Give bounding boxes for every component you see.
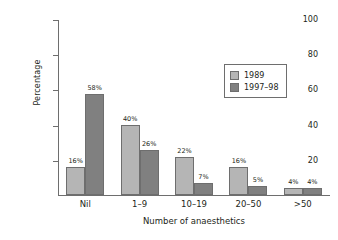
- legend: 19891997–98: [224, 64, 287, 98]
- bar-group: 4%4%: [276, 20, 330, 195]
- x-axis-tick-label: Nil: [58, 199, 112, 209]
- legend-item[interactable]: 1997–98: [230, 81, 279, 93]
- x-axis-tick-label: 10–19: [167, 199, 221, 209]
- bar-group: 40%26%: [112, 20, 166, 195]
- bar-value-label: 4%: [307, 179, 317, 186]
- bar[interactable]: [140, 150, 159, 196]
- bar[interactable]: [229, 167, 248, 195]
- x-axis-tick-label: 20–50: [221, 199, 275, 209]
- bar-group: 16%58%: [58, 20, 112, 195]
- bar[interactable]: [194, 183, 213, 195]
- bar-value-label: 7%: [198, 174, 208, 181]
- bar-item[interactable]: 22%: [175, 157, 194, 196]
- legend-label: 1989: [244, 71, 264, 80]
- x-axis-tick-labels: Nil1–910–1920–50>50: [58, 199, 330, 209]
- bar-value-label: 5%: [253, 177, 263, 184]
- bar-group: 22%7%: [167, 20, 221, 195]
- bar-value-label: 58%: [87, 85, 101, 92]
- bar[interactable]: [175, 157, 194, 196]
- legend-swatch-icon: [230, 71, 239, 80]
- x-axis-title: Number of anaesthetics: [58, 216, 330, 226]
- x-axis-tick-label: 1–9: [112, 199, 166, 209]
- legend-label: 1997–98: [244, 83, 279, 92]
- x-axis-line: [58, 195, 330, 196]
- bar[interactable]: [284, 188, 303, 195]
- bar-item[interactable]: 5%: [248, 186, 267, 195]
- bar-value-label: 16%: [68, 158, 82, 165]
- bar-value-label: 26%: [142, 141, 156, 148]
- bar-value-label: 4%: [288, 179, 298, 186]
- x-axis-tick-label: >50: [276, 199, 330, 209]
- bar-value-label: 40%: [123, 116, 137, 123]
- bar[interactable]: [248, 186, 267, 195]
- bar-item[interactable]: 58%: [85, 94, 104, 196]
- bar[interactable]: [303, 188, 322, 195]
- bar-item[interactable]: 40%: [121, 125, 140, 195]
- bar-value-label: 22%: [177, 148, 191, 155]
- bar-value-label: 16%: [232, 158, 246, 165]
- bar-item[interactable]: 16%: [229, 167, 248, 195]
- bar-item[interactable]: 4%: [303, 188, 322, 195]
- bar[interactable]: [121, 125, 140, 195]
- bar[interactable]: [66, 167, 85, 195]
- bar-chart: Percentage 20406080100 16%58%40%26%22%7%…: [0, 0, 338, 240]
- bar-group: 16%5%: [221, 20, 275, 195]
- bar[interactable]: [85, 94, 104, 196]
- bar-item[interactable]: 26%: [140, 150, 159, 196]
- plot-area: 20406080100 16%58%40%26%22%7%16%5%4%4%: [58, 20, 330, 196]
- legend-item[interactable]: 1989: [230, 69, 279, 81]
- bar-groups: 16%58%40%26%22%7%16%5%4%4%: [58, 20, 330, 195]
- y-axis-title: Percentage: [33, 48, 42, 118]
- bar-item[interactable]: 16%: [66, 167, 85, 195]
- bar-item[interactable]: 4%: [284, 188, 303, 195]
- bar-item[interactable]: 7%: [194, 183, 213, 195]
- legend-swatch-icon: [230, 83, 239, 92]
